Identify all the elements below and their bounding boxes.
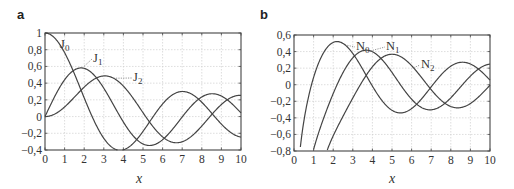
- y-tick-label: −0,8: [270, 145, 291, 158]
- panel-label-a: a: [17, 7, 25, 22]
- x-tick-label: 0: [291, 154, 297, 166]
- curve-j1: [45, 68, 241, 146]
- x-tick-label: 1: [62, 153, 68, 165]
- y-tick-label: 0,4: [277, 46, 292, 59]
- x-axis-label-a: x: [135, 171, 143, 186]
- curve-label-n2: N2: [421, 57, 435, 73]
- y-tick-label: 0,2: [277, 62, 292, 75]
- leader-line: [414, 65, 420, 68]
- chart-panel-a: J0J1J201234567891010,80,60,40,20−0,2−0,4: [21, 27, 247, 165]
- x-tick-label: 4: [121, 153, 127, 165]
- x-tick-label: 2: [81, 153, 87, 165]
- y-tick-label: 0,2: [28, 94, 43, 107]
- x-tick-label: 10: [235, 153, 247, 165]
- curve-label-j1: J1: [93, 51, 102, 67]
- x-axis-label-b: x: [388, 171, 396, 186]
- y-tick-label: 0,8: [28, 44, 43, 57]
- curve-n2: [327, 54, 490, 150]
- y-tick-label: −0,2: [21, 127, 42, 140]
- x-tick-label: 2: [330, 154, 336, 166]
- x-tick-label: 5: [140, 153, 146, 165]
- x-tick-label: 3: [350, 154, 356, 166]
- y-tick-label: 0,4: [28, 77, 43, 90]
- bessel-function-figure: a J0J1J201234567891010,80,60,40,20−0,2−0…: [0, 0, 514, 189]
- y-tick-label: −0,4: [21, 144, 42, 157]
- y-tick-label: 0: [285, 79, 291, 91]
- x-tick-label: 9: [219, 153, 225, 165]
- x-tick-label: 1: [311, 154, 317, 166]
- x-tick-label: 7: [428, 154, 434, 166]
- y-tick-label: 0,6: [28, 60, 43, 73]
- x-tick-label: 3: [101, 153, 107, 165]
- y-tick-label: −0,2: [270, 95, 291, 108]
- y-tick-label: −0,4: [270, 112, 291, 125]
- x-tick-label: 0: [42, 153, 48, 165]
- x-tick-label: 10: [484, 154, 496, 166]
- y-tick-label: 1: [36, 27, 42, 39]
- panel-label-b: b: [260, 7, 268, 22]
- y-tick-label: 0,6: [277, 29, 292, 42]
- x-tick-label: 6: [160, 153, 166, 165]
- curve-label-j2: J2: [133, 70, 142, 86]
- x-tick-label: 6: [409, 154, 415, 166]
- x-tick-label: 8: [448, 154, 454, 166]
- x-tick-label: 5: [389, 154, 395, 166]
- x-tick-label: 8: [199, 153, 205, 165]
- x-tick-label: 7: [179, 153, 185, 165]
- x-tick-label: 4: [370, 154, 376, 166]
- x-tick-label: 9: [468, 154, 474, 166]
- y-tick-label: −0,6: [270, 128, 291, 141]
- y-tick-label: 0: [36, 111, 42, 123]
- curve-label-n1: N1: [386, 39, 400, 55]
- chart-panel-b: N0N1N20123456789100,60,40,20−0,2−0,4−0,6…: [270, 29, 496, 166]
- curve-n0: [300, 42, 490, 147]
